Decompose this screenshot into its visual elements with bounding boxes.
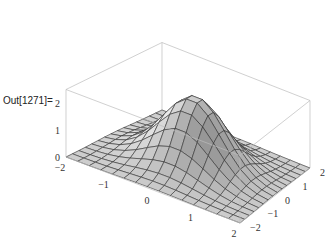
svg-text:1: 1 [188, 212, 193, 223]
svg-text:2: 2 [55, 98, 60, 109]
svg-text:−1: −1 [268, 208, 279, 219]
svg-text:−2: −2 [55, 162, 66, 173]
svg-text:0: 0 [145, 195, 150, 206]
gaussian-surface [66, 96, 310, 223]
svg-text:0: 0 [55, 152, 60, 163]
svg-text:−2: −2 [250, 222, 261, 233]
3d-surface-plot[interactable]: −2−1012−2−1012012 [0, 0, 325, 246]
svg-text:1: 1 [55, 125, 60, 136]
svg-text:1: 1 [303, 181, 308, 192]
svg-text:2: 2 [320, 167, 325, 178]
svg-text:0: 0 [285, 195, 290, 206]
svg-text:−1: −1 [98, 179, 109, 190]
svg-text:2: 2 [232, 228, 237, 239]
